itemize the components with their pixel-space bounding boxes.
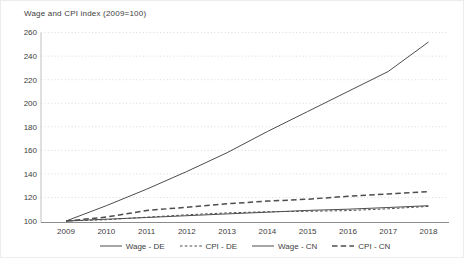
legend-line-sample-cpi-cn: [332, 242, 354, 250]
legend-item-cpi-de: CPI - DE: [180, 242, 238, 251]
x-tick-label: 2013: [218, 227, 236, 236]
y-tick-label: 120: [24, 193, 38, 202]
x-tick-label: 2010: [97, 227, 115, 236]
legend-item-wage-de: Wage - DE: [100, 242, 165, 251]
x-tick-label: 2009: [57, 227, 75, 236]
chart-title: Wage and CPI index (2009=100): [24, 9, 146, 18]
chart-legend: Wage - DECPI - DEWage - CNCPI - CN: [41, 239, 449, 253]
x-tick-label: 2016: [339, 227, 357, 236]
x-tick-label: 2018: [420, 227, 438, 236]
series-line-cpi-cn: [66, 192, 429, 221]
y-tick-label: 100: [24, 217, 38, 226]
legend-label-wage-cn: Wage - CN: [278, 242, 317, 251]
y-tick-label: 220: [24, 76, 38, 85]
y-tick-label: 200: [24, 99, 38, 108]
x-tick-label: 2012: [178, 227, 196, 236]
legend-label-wage-de: Wage - DE: [126, 242, 165, 251]
y-tick-label: 180: [24, 123, 38, 132]
x-tick-label: 2017: [379, 227, 397, 236]
x-tick-label: 2014: [258, 227, 276, 236]
y-tick-label: 140: [24, 170, 38, 179]
y-tick-label: 260: [24, 28, 38, 37]
x-tick-label: 2015: [299, 227, 317, 236]
plot-area: 1001201401601802002202402602009201020112…: [1, 1, 466, 239]
y-tick-label: 160: [24, 146, 38, 155]
y-tick-label: 240: [24, 52, 38, 61]
legend-item-wage-cn: Wage - CN: [252, 242, 317, 251]
legend-line-sample-wage-cn: [252, 242, 274, 250]
legend-line-sample-wage-de: [100, 242, 122, 250]
legend-label-cpi-cn: CPI - CN: [358, 242, 390, 251]
legend-item-cpi-cn: CPI - CN: [332, 242, 390, 251]
wage-cpi-index-chart: 1001201401601802002202402602009201020112…: [0, 0, 464, 258]
x-tick-label: 2011: [138, 227, 156, 236]
legend-label-cpi-de: CPI - DE: [206, 242, 238, 251]
legend-line-sample-cpi-de: [180, 242, 202, 250]
